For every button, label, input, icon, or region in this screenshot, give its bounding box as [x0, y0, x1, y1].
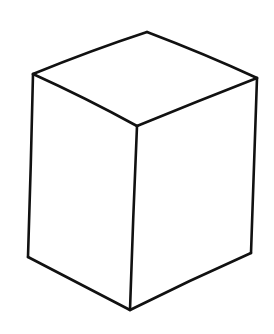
bottom-left-edge [28, 257, 130, 310]
top-front-right-edge [137, 78, 257, 126]
bottom-right-edge [130, 253, 251, 310]
cube-sketch [0, 0, 274, 334]
drawing-canvas [0, 0, 274, 334]
right-vertical-edge [251, 78, 257, 253]
cube-edges [28, 32, 257, 310]
top-back-left-edge [33, 32, 147, 74]
front-vertical-edge [130, 126, 137, 310]
top-front-left-edge [33, 74, 137, 126]
left-vertical-edge [28, 74, 33, 257]
top-back-right-edge [147, 32, 257, 78]
